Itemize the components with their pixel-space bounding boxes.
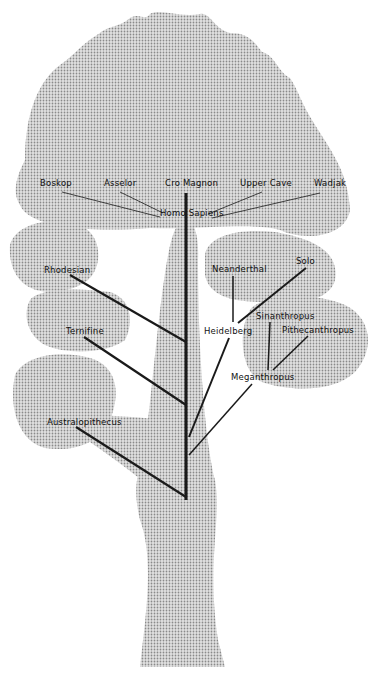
label-meganthropus: Meganthropus	[231, 372, 294, 382]
label-homo-sapiens: Homo Sapiens	[160, 208, 224, 218]
label-australopithecus: Australopithecus	[47, 417, 122, 427]
label-pithecanthropus: Pithecanthropus	[282, 325, 354, 335]
label-neanderthal: Neanderthal	[212, 264, 267, 274]
label-boskop: Boskop	[40, 178, 72, 188]
tree-canopy	[10, 12, 368, 667]
label-sinanthropus: Sinanthropus	[256, 311, 315, 321]
label-cro-magnon: Cro Magnon	[165, 178, 218, 188]
canopy-left-upper	[10, 221, 98, 292]
canopy-top	[16, 12, 350, 236]
label-heidelberg: Heidelberg	[204, 326, 252, 336]
tree-diagram	[0, 0, 377, 681]
label-rhodesian: Rhodesian	[44, 265, 90, 275]
label-solo: Solo	[296, 256, 315, 266]
label-wadjak: Wadjak	[314, 178, 346, 188]
label-upper-cave: Upper Cave	[240, 178, 292, 188]
label-asselor: Asselor	[104, 178, 136, 188]
canopy-left-middle	[26, 290, 130, 352]
label-ternifine: Ternifine	[66, 326, 104, 336]
